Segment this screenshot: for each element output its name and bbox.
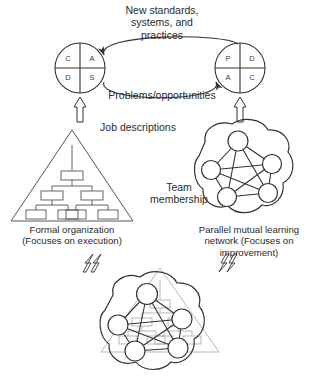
left-circle-quadrant-top-right: A xyxy=(86,54,98,63)
block-arrow-job-descriptions xyxy=(74,97,86,122)
label-problems-opportunities: Problems/opportunities xyxy=(88,89,236,101)
caption-formal-line2: (Focuses on execution) xyxy=(2,235,142,246)
label-team-membership: Team membership xyxy=(145,181,213,206)
left-circle-quadrant-bottom-right: S xyxy=(86,73,98,82)
right-circle-quadrant-top-right: D xyxy=(246,54,258,63)
label-new-standards-line3: practices xyxy=(88,29,236,41)
caption-parallel-network: Parallel mutual learning network (Focuse… xyxy=(178,224,320,258)
caption-formal-line1: Formal organization xyxy=(2,224,142,235)
formal-organization-triangle xyxy=(11,130,133,221)
caption-formal-organization: Formal organization (Focuses on executio… xyxy=(2,224,142,247)
caption-parallel-line1: Parallel mutual learning xyxy=(178,224,320,235)
label-new-standards: New standards, systems, and practices xyxy=(88,4,236,41)
right-circle-quadrant-bottom-right: C xyxy=(246,73,258,82)
label-new-standards-line1: New standards, xyxy=(88,4,236,16)
left-circle-cads xyxy=(55,43,105,93)
label-team-membership-line1: Team xyxy=(145,181,213,193)
label-new-standards-line2: systems, and xyxy=(88,16,236,28)
left-circle-quadrant-bottom-left: D xyxy=(62,73,74,82)
right-circle-quadrant-bottom-left: A xyxy=(222,73,234,82)
caption-parallel-line3: improvement) xyxy=(178,247,320,258)
right-circle-quadrant-top-left: P xyxy=(222,54,234,63)
left-circle-quadrant-top-left: C xyxy=(62,54,74,63)
right-circle-pdca xyxy=(215,43,265,93)
org-chart-hierarchy xyxy=(26,145,118,219)
block-arrow-overlay-to-formal xyxy=(83,254,101,272)
label-team-membership-line2: membership xyxy=(145,193,213,205)
label-job-descriptions: Job descriptions xyxy=(84,121,192,133)
caption-parallel-line2: network (Focuses on xyxy=(178,235,320,246)
